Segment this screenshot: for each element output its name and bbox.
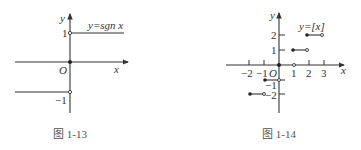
equation-label: y=sgn x [87, 19, 123, 31]
open-point-icon [278, 79, 281, 82]
y-axis-label: y [59, 12, 65, 24]
filled-point-icon [305, 33, 309, 37]
filled-point-icon [248, 92, 252, 96]
open-point-icon [306, 49, 309, 52]
origin-label: O [59, 64, 67, 76]
y-tick-1: 1 [271, 44, 277, 56]
figure-caption: 图 1-13 [53, 128, 87, 140]
origin-label: O [269, 67, 277, 79]
tick-label-neg1: −1 [55, 94, 67, 106]
x-tick-1: 1 [291, 67, 297, 79]
y-tick-neg2: −2 [265, 89, 277, 101]
x-axis-label: x [113, 63, 119, 75]
open-point-icon [321, 34, 324, 37]
x-tick-neg2: −2 [241, 67, 253, 79]
figures-canvas: y x O 1 −1 y=sgn x 图 1-13 [0, 0, 361, 150]
equation-label: y=[x] [298, 20, 325, 32]
tick-label-1: 1 [62, 27, 68, 39]
x-tick-neg1: −1 [256, 67, 268, 79]
open-point-icon [68, 90, 71, 93]
filled-point-icon [277, 63, 281, 67]
figure-caption: 图 1-14 [262, 128, 296, 140]
y-axis-label: y [269, 9, 275, 21]
filled-point-icon [291, 48, 295, 52]
open-point-icon [68, 31, 71, 34]
y-tick-2: 2 [271, 29, 277, 41]
x-tick-2: 2 [306, 67, 312, 79]
x-axis-label: x [340, 64, 346, 76]
x-tick-3: 3 [321, 67, 327, 79]
filled-point-icon [68, 60, 72, 64]
figure-sgn: y x O 1 −1 y=sgn x 图 1-13 [15, 12, 128, 140]
figure-floor: y x O y=[x] −2 −1 1 2 3 2 1 −1 −2 图 1-14 [226, 9, 346, 140]
